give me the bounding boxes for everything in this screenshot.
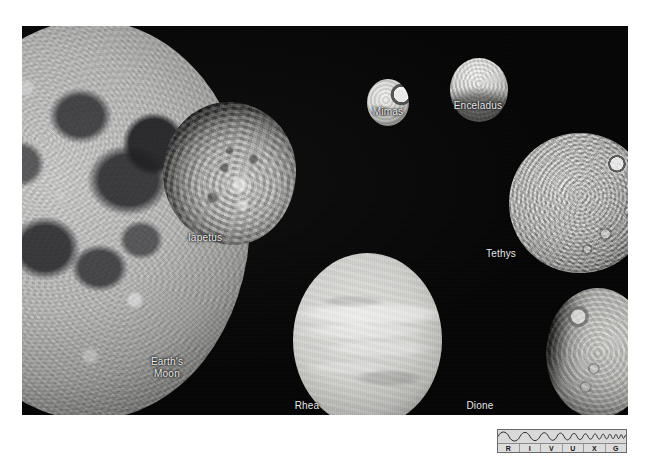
label-mimas: Mimas: [350, 106, 426, 118]
spectrum-key: R I V U X G: [497, 429, 627, 453]
moon-rhea: [293, 253, 442, 415]
spectrum-wave-icon: [498, 430, 626, 443]
spectrum-letter-r: R: [498, 444, 520, 453]
astronomy-figure: Earth's Moon Iapetus Mimas Enceladus Tet…: [0, 0, 660, 458]
spectrum-letter-v: V: [541, 444, 563, 453]
spectrum-letters: R I V U X G: [498, 443, 626, 453]
spectrum-letter-u: U: [563, 444, 585, 453]
photo-plate: Earth's Moon Iapetus Mimas Enceladus Tet…: [22, 26, 628, 415]
spectrum-letter-x: X: [584, 444, 606, 453]
spectrum-letter-i: I: [520, 444, 542, 453]
label-earths-moon: Earth's Moon: [132, 356, 202, 380]
label-iapetus: Iapetus: [175, 232, 235, 244]
moon-iapetus: [163, 102, 296, 245]
label-tethys: Tethys: [468, 248, 534, 260]
moon-dione: [546, 288, 628, 415]
label-rhea: Rhea: [277, 400, 337, 412]
moon-mimas: [367, 79, 409, 126]
moon-enceladus: [450, 58, 508, 122]
label-enceladus: Enceladus: [428, 100, 528, 112]
label-dione: Dione: [450, 400, 510, 412]
spectrum-letter-g: G: [606, 444, 627, 453]
